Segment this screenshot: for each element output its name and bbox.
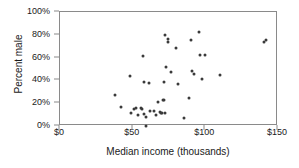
data-point	[136, 114, 139, 117]
data-point	[149, 110, 152, 113]
data-point	[152, 109, 155, 112]
data-point	[164, 34, 167, 37]
x-tick-mark	[59, 125, 60, 130]
data-point	[203, 54, 206, 57]
x-tick-mark	[131, 125, 132, 130]
data-point	[189, 38, 192, 41]
data-point	[187, 96, 190, 99]
y-tick-label: 80%	[32, 29, 50, 38]
data-point	[120, 106, 123, 109]
scatter-plot-figure: 0%20%40%60%80%100% Median income (thousa…	[0, 0, 299, 168]
data-points-layer	[60, 12, 276, 124]
data-point	[177, 83, 180, 86]
y-tick-label: 40%	[32, 75, 50, 84]
data-point	[162, 81, 165, 84]
y-tick-label: 0%	[37, 121, 50, 130]
data-point	[201, 77, 204, 80]
y-axis-ticks: 0%20%40%60%80%100%	[0, 0, 56, 168]
x-axis-title: Median income (thousands)	[59, 146, 277, 158]
data-point	[197, 30, 200, 33]
data-point	[182, 117, 185, 120]
data-point	[143, 80, 146, 83]
data-point	[167, 40, 170, 43]
y-tick-label: 20%	[32, 98, 50, 107]
data-point	[154, 114, 157, 117]
data-point	[192, 73, 195, 76]
data-point	[145, 115, 148, 118]
data-point	[141, 107, 144, 110]
data-point	[170, 71, 173, 74]
plot-area	[59, 11, 277, 125]
y-tick-label: 100%	[27, 7, 50, 16]
data-point	[162, 99, 165, 102]
y-tick-label: 60%	[32, 52, 50, 61]
data-point	[147, 81, 150, 84]
y-axis-title: Percent male	[13, 14, 25, 114]
x-tick-mark	[204, 125, 205, 130]
data-point	[141, 55, 144, 58]
data-point	[218, 73, 221, 76]
data-point	[144, 125, 147, 128]
data-point	[163, 111, 166, 114]
data-point	[157, 101, 160, 104]
data-point	[175, 46, 178, 49]
data-point	[199, 54, 202, 57]
data-point	[128, 74, 131, 77]
data-point	[264, 38, 267, 41]
data-point	[130, 112, 133, 115]
data-point	[134, 107, 137, 110]
x-tick-mark	[277, 125, 278, 130]
data-point	[113, 93, 116, 96]
data-point	[165, 66, 168, 69]
